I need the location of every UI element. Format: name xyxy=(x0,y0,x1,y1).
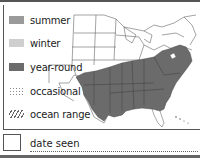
legend-label-winter: winter xyxy=(30,38,60,49)
summer-swatch-icon xyxy=(9,16,24,24)
occasional-dotted-swatch-icon xyxy=(9,87,24,95)
legend-item-year-round: year-round xyxy=(9,61,82,73)
date-seen-checkbox[interactable] xyxy=(3,134,21,151)
legend-label-summer: summer xyxy=(30,15,70,26)
date-seen-line[interactable] xyxy=(30,151,198,152)
year-round-swatch-icon xyxy=(9,63,24,71)
legend-label-occasional: occasional xyxy=(30,86,81,97)
winter-swatch-icon xyxy=(9,39,24,47)
legend-item-ocean-range: ocean range xyxy=(9,108,90,120)
legend-label-ocean-range: ocean range xyxy=(30,109,90,120)
ocean-range-hatch-icon xyxy=(9,110,24,118)
legend-label-year-round: year-round xyxy=(30,62,82,73)
legend-item-summer: summer xyxy=(9,14,70,26)
date-seen-label: date seen xyxy=(30,138,80,149)
legend-item-occasional: occasional xyxy=(9,85,81,97)
top-border xyxy=(0,0,200,2)
bottom-border xyxy=(0,155,200,158)
legend-item-winter: winter xyxy=(9,37,60,49)
